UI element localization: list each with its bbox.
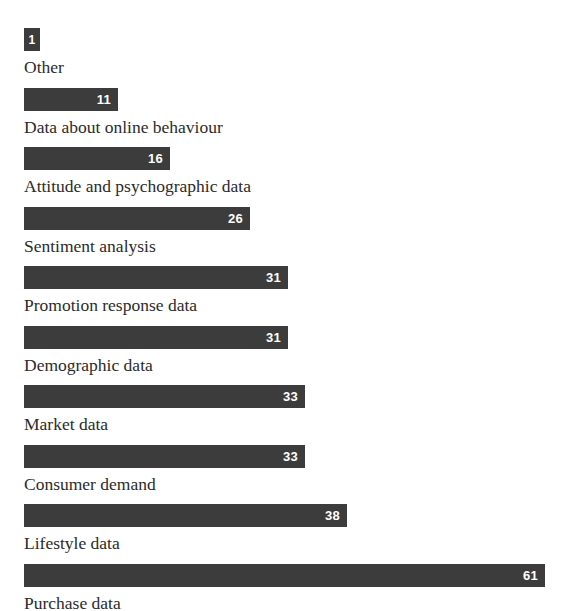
bar-row[interactable]: 31 xyxy=(24,326,561,349)
bar-group-4: 31 Promotion response data xyxy=(0,266,561,326)
bar-group-1: 11 Data about online behaviour xyxy=(0,88,561,148)
bar-group-8: 38 Lifestyle data xyxy=(0,504,561,564)
bar-value-label: 11 xyxy=(97,93,118,106)
category-label-attitude-and-psychographic-data: Attitude and psychographic data xyxy=(24,170,561,207)
category-label-market-data: Market data xyxy=(24,408,561,445)
bar-data-about-online-behaviour[interactable]: 11 xyxy=(24,88,118,111)
bar-other[interactable]: 1 xyxy=(24,28,40,51)
bar-row[interactable]: 61 xyxy=(24,564,561,587)
bar-group-5: 31 Demographic data xyxy=(0,326,561,386)
category-label-promotion-response-data: Promotion response data xyxy=(24,289,561,326)
bar-value-label: 38 xyxy=(325,509,347,522)
bar-row[interactable]: 33 xyxy=(24,385,561,408)
bar-group-0: 1 Other xyxy=(0,28,561,88)
bar-lifestyle-data[interactable]: 38 xyxy=(24,504,347,527)
bar-value-label: 16 xyxy=(148,152,170,165)
horizontal-bar-chart: 1 Other 11 Data about online behaviour 1… xyxy=(0,0,561,611)
bar-value-label: 1 xyxy=(24,34,40,46)
bar-row[interactable]: 1 xyxy=(24,28,561,51)
category-label-demographic-data: Demographic data xyxy=(24,349,561,386)
bar-value-label: 33 xyxy=(283,390,305,403)
bar-purchase-data[interactable]: 61 xyxy=(24,564,545,587)
bar-group-3: 26 Sentiment analysis xyxy=(0,207,561,267)
bar-value-label: 33 xyxy=(283,450,305,463)
category-label-consumer-demand: Consumer demand xyxy=(24,468,561,505)
category-label-lifestyle-data: Lifestyle data xyxy=(24,527,561,564)
bar-row[interactable]: 11 xyxy=(24,88,561,111)
bar-market-data[interactable]: 33 xyxy=(24,385,305,408)
bar-group-2: 16 Attitude and psychographic data xyxy=(0,147,561,207)
bar-consumer-demand[interactable]: 33 xyxy=(24,445,305,468)
bar-value-label: 31 xyxy=(266,271,288,284)
bar-row[interactable]: 33 xyxy=(24,445,561,468)
bar-value-label: 26 xyxy=(228,212,250,225)
category-label-data-about-online-behaviour: Data about online behaviour xyxy=(24,111,561,148)
bar-value-label: 31 xyxy=(266,331,288,344)
category-label-purchase-data: Purchase data xyxy=(24,587,561,611)
category-label-sentiment-analysis: Sentiment analysis xyxy=(24,230,561,267)
chart-top-spacer xyxy=(0,0,561,28)
bar-attitude-and-psychographic-data[interactable]: 16 xyxy=(24,147,170,170)
bar-value-label: 61 xyxy=(523,569,545,582)
bar-promotion-response-data[interactable]: 31 xyxy=(24,266,288,289)
bar-sentiment-analysis[interactable]: 26 xyxy=(24,207,250,230)
bar-row[interactable]: 38 xyxy=(24,504,561,527)
category-label-other: Other xyxy=(24,51,561,88)
bar-row[interactable]: 26 xyxy=(24,207,561,230)
bar-row[interactable]: 16 xyxy=(24,147,561,170)
bar-group-7: 33 Consumer demand xyxy=(0,445,561,505)
bar-demographic-data[interactable]: 31 xyxy=(24,326,288,349)
bar-row[interactable]: 31 xyxy=(24,266,561,289)
bar-group-9: 61 Purchase data xyxy=(0,564,561,611)
bar-group-6: 33 Market data xyxy=(0,385,561,445)
